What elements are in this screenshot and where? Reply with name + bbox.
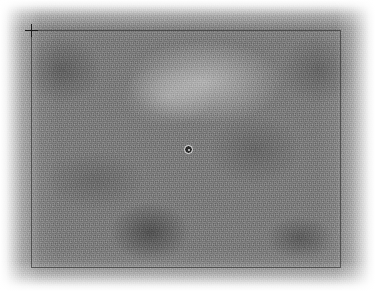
image-viewer[interactable]: Grayscale noisy image field with a recta… <box>0 0 375 291</box>
source-marker-icon[interactable] <box>184 145 193 154</box>
crosshair-icon[interactable] <box>25 24 38 37</box>
